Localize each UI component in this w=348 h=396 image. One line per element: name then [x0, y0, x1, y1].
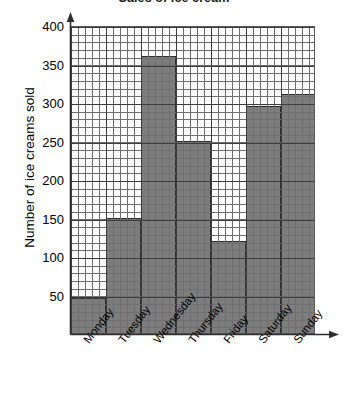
bar-chart: Sales of ice cream Number of ice creams … — [0, 0, 348, 396]
y-tick-label: 250 — [20, 134, 64, 149]
y-tick-label: 400 — [20, 19, 64, 34]
y-tick-label: 350 — [20, 57, 64, 72]
bar — [141, 56, 176, 333]
y-tick-label: 300 — [20, 96, 64, 111]
bar-series — [71, 27, 314, 333]
chart-title: Sales of ice cream — [0, 0, 348, 5]
y-axis-tick-labels: 50100150200250300350400 — [16, 26, 64, 334]
x-axis-tick-labels: MondayTuesdayWednesdayThursdayFridaySatu… — [70, 338, 315, 396]
bar — [246, 106, 281, 333]
plot-area — [70, 26, 315, 334]
y-tick-label: 100 — [20, 250, 64, 265]
y-tick-label: 150 — [20, 211, 64, 226]
bar — [281, 94, 315, 333]
y-tick-label: 50 — [20, 288, 64, 303]
y-tick-label: 200 — [20, 173, 64, 188]
